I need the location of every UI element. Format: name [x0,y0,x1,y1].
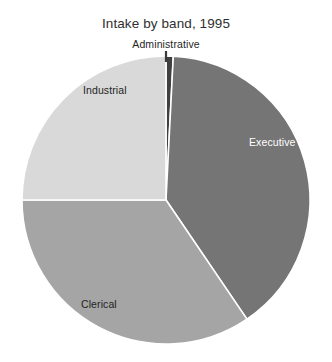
pie-slice-industrial [22,56,166,200]
pie-label-clerical: Clerical [81,298,117,310]
pie-chart-canvas [0,0,332,362]
pie-label-executive: Executive [249,136,295,148]
pie-chart-figure: Intake by band, 1995 Administrative Indu… [0,0,332,362]
pie-slice-group [22,56,310,344]
pie-label-administrative: Administrative [0,38,332,50]
pie-label-industrial: Industrial [83,84,127,96]
